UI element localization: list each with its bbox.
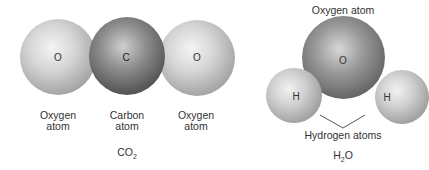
h2o-hydrogen-caption: Hydrogen atoms — [304, 130, 381, 141]
h2o-formula: H2O — [333, 149, 353, 163]
